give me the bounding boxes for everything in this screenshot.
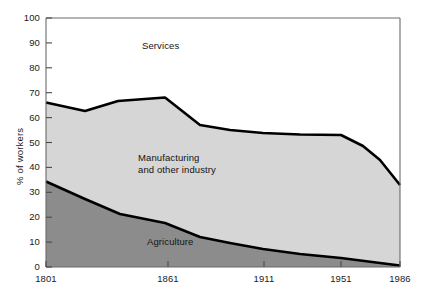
series-label-services: Services [142,40,179,52]
y-tick-label-40: 40 [14,161,40,172]
series-label-agriculture: Agriculture [147,236,194,248]
x-tick-label-1861: 1861 [148,273,188,284]
y-tick-label-60: 60 [14,112,40,123]
y-tick-label-30: 30 [14,186,40,197]
y-tick-label-20: 20 [14,211,40,222]
y-tick-label-50: 50 [14,137,40,148]
chart-figure: % of workers 100 90 80 70 60 50 40 30 20… [0,0,428,296]
y-tick-label-90: 90 [14,37,40,48]
series-label-manufacturing-line1: Manufacturing [138,152,200,164]
series-label-manufacturing-line2: and other industry [138,164,216,176]
y-tick-label-100: 100 [14,12,40,23]
y-tick-label-70: 70 [14,87,40,98]
x-tick-label-1801: 1801 [26,273,66,284]
stacked-area-chart [0,0,428,296]
y-tick-label-10: 10 [14,236,40,247]
y-tick-label-80: 80 [14,62,40,73]
x-tick-label-1951: 1951 [321,273,361,284]
x-tick-label-1986: 1986 [380,273,420,284]
x-tick-label-1911: 1911 [244,273,284,284]
y-tick-label-0: 0 [14,261,40,272]
